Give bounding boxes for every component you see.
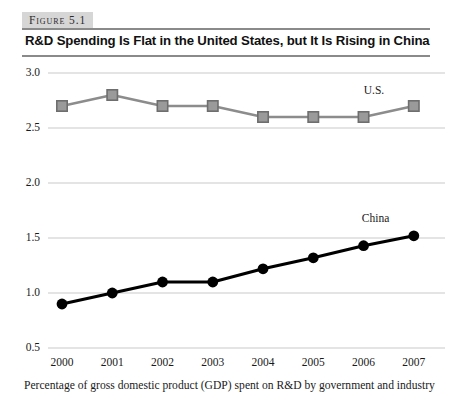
data-point-marker <box>258 263 269 274</box>
x-axis-tick-label: 2005 <box>290 356 336 368</box>
chart-svg <box>0 0 451 411</box>
data-point-marker <box>208 101 218 111</box>
data-point-marker <box>308 252 319 263</box>
figure-caption: Percentage of gross domestic product (GD… <box>24 379 444 392</box>
y-axis-tick-label: 3.0 <box>14 66 40 78</box>
x-axis-tick-label: 2004 <box>240 356 286 368</box>
series-label-china: China <box>362 212 389 224</box>
x-axis-tick-label: 2002 <box>140 356 186 368</box>
data-point-marker <box>358 112 368 122</box>
chart-plot-area <box>0 0 451 411</box>
data-point-marker <box>308 112 318 122</box>
data-point-marker <box>57 299 68 310</box>
data-point-marker <box>258 112 268 122</box>
data-point-marker <box>408 230 419 241</box>
y-axis-tick-label: 1.0 <box>14 286 40 298</box>
x-axis-tick-label: 2007 <box>391 356 437 368</box>
data-point-marker <box>157 277 168 288</box>
data-point-marker <box>358 240 369 251</box>
data-point-marker <box>157 101 167 111</box>
data-point-marker <box>409 101 419 111</box>
x-axis-tick-label: 2003 <box>190 356 236 368</box>
series-label-us: U.S. <box>364 84 384 96</box>
data-point-marker <box>57 101 67 111</box>
y-axis-tick-label: 2.5 <box>14 121 40 133</box>
data-point-marker <box>107 288 118 299</box>
y-axis-tick-label: 2.0 <box>14 176 40 188</box>
x-axis-tick-label: 2006 <box>341 356 387 368</box>
x-axis-tick-label: 2001 <box>89 356 135 368</box>
figure-container: Figure 5.1 R&D Spending Is Flat in the U… <box>0 0 451 411</box>
y-axis-tick-label: 0.5 <box>14 341 40 353</box>
x-axis-tick-label: 2000 <box>39 356 85 368</box>
data-point-marker <box>207 277 218 288</box>
data-point-marker <box>107 90 117 100</box>
y-axis-tick-label: 1.5 <box>14 231 40 243</box>
